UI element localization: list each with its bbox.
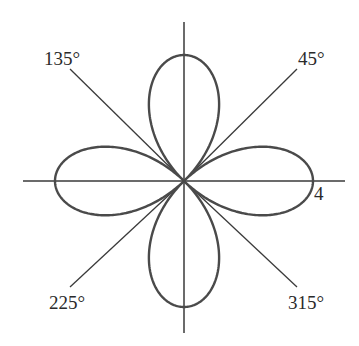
ray-315-degrees — [184, 181, 297, 287]
ray-45-degrees — [184, 69, 297, 181]
label-45-degrees: 45° — [298, 49, 325, 68]
ray-135-degrees — [70, 69, 184, 181]
label-135-degrees: 135° — [44, 49, 80, 68]
label-radius-4: 4 — [314, 184, 324, 203]
ray-225-degrees — [70, 181, 184, 287]
label-225-degrees: 225° — [49, 293, 85, 312]
label-315-degrees: 315° — [288, 293, 324, 312]
polar-rose-diagram: 135° 45° 225° 315° 4 — [0, 0, 359, 346]
